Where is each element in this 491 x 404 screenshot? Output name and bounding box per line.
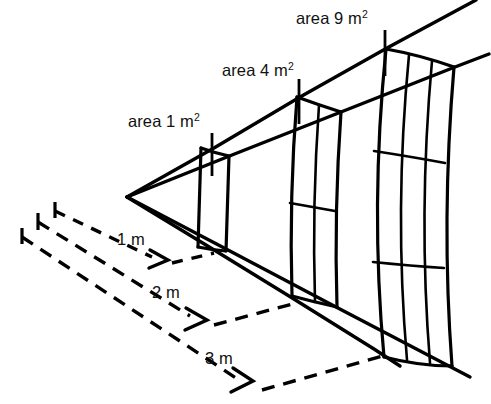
area-label-1: area 1 m2 — [128, 111, 200, 130]
panel-4m2-horizontal-divider — [290, 203, 335, 211]
figure-root: area 1 m2 area 4 m2 area 9 m2 1 m 2 m 3 … — [0, 0, 491, 404]
panel-4m2-left-edge — [291, 97, 297, 296]
ground-line-3m-path-right — [262, 355, 386, 390]
area-labels-group: area 1 m2 area 4 m2 area 9 m2 — [128, 8, 368, 130]
ground-line-3m-path — [22, 237, 236, 378]
area-label-1-text: area 1 m — [128, 112, 194, 130]
ground-line-2m — [38, 213, 296, 330]
source-rays — [127, 0, 489, 377]
panel-9m2-vertical-divider-2 — [424, 61, 432, 363]
area-label-4-superscript: 2 — [288, 60, 294, 72]
panel-9m2-vertical-divider-1 — [401, 55, 409, 360]
ground-line-3m — [22, 228, 386, 392]
ground-line-2m-path — [38, 222, 190, 316]
ground-dashed-lines — [22, 202, 386, 392]
ground-line-1m-arrowhead — [149, 250, 168, 268]
panel-9m2-horizontal-divider-2 — [373, 262, 444, 268]
ground-line-2m-path-right — [214, 303, 296, 325]
area-label-9-text: area 9 m — [296, 9, 362, 27]
ground-line-1m-path-right — [172, 253, 214, 263]
panel-1m2-right-edge — [226, 156, 229, 251]
distance-label-3m: 3 m — [205, 349, 233, 367]
area-label-4: area 4 m2 — [222, 60, 294, 79]
ray-bottom-left — [127, 197, 400, 366]
area-label-1-superscript: 2 — [194, 111, 200, 123]
panel-9m2-top-edge — [386, 49, 454, 67]
panel-1m2-left-edge — [198, 148, 201, 247]
panel-9m2-horizontal-divider-1 — [374, 151, 445, 163]
distance-label-2m: 2 m — [152, 283, 180, 301]
inverse-square-law-diagram: area 1 m2 area 4 m2 area 9 m2 1 m 2 m 3 … — [0, 0, 491, 404]
panel-9m2 — [373, 49, 454, 366]
area-label-9: area 9 m2 — [296, 8, 368, 27]
panel-4m2-vertical-divider — [314, 105, 319, 302]
panel-4m2-right-edge — [336, 112, 341, 307]
ground-line-2m-arrowhead — [185, 308, 207, 330]
area-label-9-superscript: 2 — [362, 8, 368, 20]
area-label-4-text: area 4 m — [222, 61, 288, 79]
ground-line-3m-arrowhead — [231, 368, 253, 392]
panel-9m2-right-edge — [447, 67, 454, 366]
distance-label-1m: 1 m — [117, 230, 145, 248]
